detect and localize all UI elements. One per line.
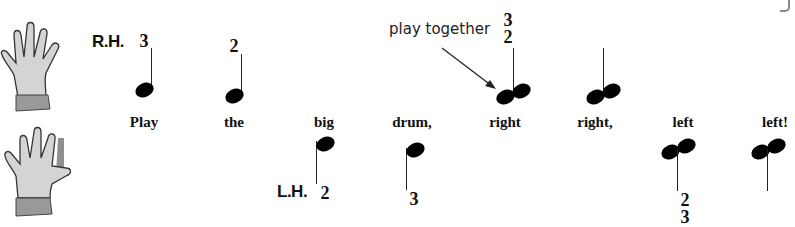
fingering-number: 3 — [500, 12, 516, 28]
fingering-number: 2 — [226, 38, 242, 54]
fingering-number: 2 — [677, 192, 693, 208]
lyric-word: big — [284, 114, 364, 131]
decorative-mark-icon — [780, 0, 790, 12]
lyric-word: left — [643, 114, 723, 131]
lyric-word: drum, — [372, 114, 452, 131]
fingering-number: 3 — [406, 191, 422, 207]
right-hand-label: R.H. — [92, 32, 124, 52]
fingering-number: 2 — [317, 185, 333, 201]
left-hand-label: L.H. — [277, 182, 307, 202]
lyric-word: left! — [735, 114, 795, 131]
fingering-number: 3 — [136, 33, 152, 49]
fingering-number: 3 — [677, 209, 693, 225]
lyric-word: the — [194, 114, 274, 131]
arrow-icon — [440, 46, 500, 91]
right-hand-icon — [0, 15, 70, 115]
left-hand-icon — [4, 118, 76, 218]
lyric-word: right — [465, 114, 545, 131]
fingering-number: 2 — [500, 29, 516, 45]
lyric-word: Play — [104, 114, 184, 131]
play-together-annotation: play together — [389, 20, 490, 38]
lyric-word: right, — [555, 114, 635, 131]
